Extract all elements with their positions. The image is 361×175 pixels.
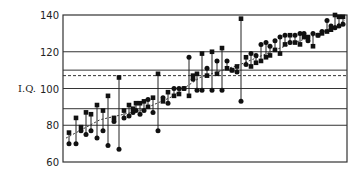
circle-marker xyxy=(161,95,166,100)
circle-marker xyxy=(215,58,220,63)
square-marker xyxy=(117,75,122,80)
circle-marker xyxy=(187,55,192,60)
square-marker xyxy=(210,49,215,54)
square-marker xyxy=(156,72,161,77)
circle-marker xyxy=(89,128,94,133)
square-marker xyxy=(74,116,79,121)
square-marker xyxy=(244,55,249,60)
y-tick-label: 120 xyxy=(40,47,59,58)
square-marker xyxy=(220,46,225,51)
circle-marker xyxy=(210,88,215,93)
square-marker xyxy=(311,44,316,49)
circle-marker xyxy=(235,69,240,74)
circle-marker xyxy=(117,147,122,152)
square-marker xyxy=(293,40,298,45)
square-marker xyxy=(341,15,346,20)
y-tick-label: 100 xyxy=(40,84,59,95)
circle-marker xyxy=(151,110,156,115)
square-marker xyxy=(89,112,94,117)
circle-marker xyxy=(138,112,143,117)
square-marker xyxy=(333,13,338,18)
square-marker xyxy=(239,16,244,21)
circle-marker xyxy=(177,86,182,91)
circle-marker xyxy=(293,33,298,38)
square-marker xyxy=(278,51,283,56)
circle-marker xyxy=(95,136,100,141)
square-marker xyxy=(187,94,192,99)
square-marker xyxy=(283,42,288,47)
circle-marker xyxy=(278,35,283,40)
square-marker xyxy=(151,95,156,100)
circle-marker xyxy=(127,114,132,119)
square-marker xyxy=(195,72,200,77)
square-marker xyxy=(273,48,278,53)
square-marker xyxy=(205,73,210,78)
circle-marker xyxy=(172,86,177,91)
circle-marker xyxy=(156,128,161,133)
square-marker xyxy=(268,53,273,58)
square-marker xyxy=(134,101,139,106)
y-tick-label: 140 xyxy=(40,10,59,21)
square-marker xyxy=(235,64,240,69)
y-axis-ticks: 6080100120140 xyxy=(40,10,59,168)
square-marker xyxy=(95,103,100,108)
circle-marker xyxy=(254,53,259,58)
square-marker xyxy=(200,51,205,56)
square-marker xyxy=(325,29,330,34)
circle-marker xyxy=(67,141,72,146)
square-marker xyxy=(264,55,269,60)
square-marker xyxy=(288,33,293,38)
circle-marker xyxy=(195,88,200,93)
y-tick-label: 80 xyxy=(46,120,59,131)
circle-marker xyxy=(320,29,325,34)
circle-marker xyxy=(182,86,187,91)
circle-marker xyxy=(288,40,293,45)
circle-marker xyxy=(166,101,171,106)
circle-marker xyxy=(249,51,254,56)
circle-marker xyxy=(146,97,151,102)
square-marker xyxy=(259,59,264,64)
iq-chart: 6080100120140 I.Q. xyxy=(0,0,361,175)
circle-marker xyxy=(134,108,139,113)
circle-marker xyxy=(79,128,84,133)
circle-marker xyxy=(84,132,89,137)
square-marker xyxy=(166,90,171,95)
square-marker xyxy=(138,101,143,106)
square-marker xyxy=(177,92,182,97)
circle-marker xyxy=(200,88,205,93)
square-marker xyxy=(215,72,220,77)
circle-marker xyxy=(101,128,106,133)
circle-marker xyxy=(225,58,230,63)
circle-marker xyxy=(106,143,111,148)
circle-marker xyxy=(311,31,316,36)
circle-marker xyxy=(230,68,235,73)
y-axis-label: I.Q. xyxy=(18,83,36,94)
circle-marker xyxy=(239,99,244,104)
circle-marker xyxy=(74,141,79,146)
circle-marker xyxy=(244,62,249,67)
square-marker xyxy=(337,15,342,20)
square-marker xyxy=(225,66,230,71)
square-marker xyxy=(249,64,254,69)
circle-marker xyxy=(264,40,269,45)
circle-marker xyxy=(122,115,127,120)
circle-marker xyxy=(341,22,346,27)
circle-marker xyxy=(325,18,330,23)
circle-marker xyxy=(306,38,311,43)
square-marker xyxy=(106,94,111,99)
circle-marker xyxy=(283,33,288,38)
square-marker xyxy=(298,42,303,47)
y-tick-label: 60 xyxy=(46,157,59,168)
square-marker xyxy=(101,108,106,113)
circle-marker xyxy=(220,88,225,93)
square-marker xyxy=(84,110,89,115)
square-marker xyxy=(254,60,259,65)
square-marker xyxy=(172,94,177,99)
circle-marker xyxy=(273,38,278,43)
circle-marker xyxy=(191,77,196,82)
square-marker xyxy=(146,105,151,110)
square-marker xyxy=(67,130,72,135)
circle-marker xyxy=(268,44,273,49)
square-marker xyxy=(122,108,127,113)
square-marker xyxy=(127,103,132,108)
